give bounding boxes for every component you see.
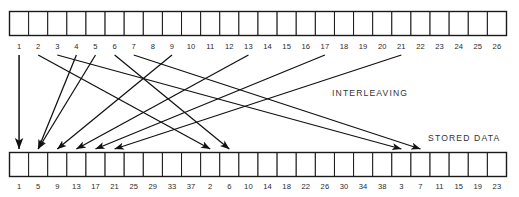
source-symbol-row: 1234567891011121314151617181920212223242… [10,12,507,51]
bottom_row-cell [48,153,67,177]
top_row-cell [220,12,239,36]
bottom_row-cell [86,153,105,177]
interleave-arrow [57,55,172,149]
bottom_row-cell [334,153,353,177]
top_row-cell [105,12,124,36]
top_row-index-label: 1 [17,42,21,51]
interleaving-figure: 1234567891011121314151617181920212223242… [0,0,519,197]
top_row-cell [162,12,181,36]
top_row-cell [315,12,334,36]
bottom_row-index-label: 29 [149,182,158,191]
interleave-arrow [134,55,421,149]
bottom_row-index-label: 9 [55,182,59,191]
bottom_row-cell [258,153,277,177]
stored-data-row: 1591317212529333726101418222630343837111… [10,153,507,191]
top_row-index-label: 20 [378,42,387,51]
bottom_row-cell [411,153,430,177]
top_row-cell [449,12,468,36]
interleave-arrow [57,55,401,149]
top_row-cell [124,12,143,36]
diagram-canvas: 1234567891011121314151617181920212223242… [0,0,519,197]
top_row-cell [411,12,430,36]
top_row-index-label: 5 [93,42,97,51]
top_row-index-label: 26 [493,42,502,51]
interleave-arrow [76,55,248,149]
bottom_row-index-label: 26 [321,182,330,191]
bottom_row-index-label: 21 [110,182,119,191]
top_row-index-label: 23 [435,42,444,51]
bottom_row-cell [277,153,296,177]
bottom_row-cell [296,153,315,177]
interleave-arrow [38,55,95,149]
bottom_row-index-label: 37 [187,182,196,191]
bottom_row-cell [487,153,506,177]
top_row-index-label: 7 [132,42,136,51]
top_row-cell [48,12,67,36]
top_row-index-label: 22 [416,42,425,51]
top_row-cell [67,12,86,36]
top_row-cell [392,12,411,36]
top_row-cell [430,12,449,36]
top_row-cell [182,12,201,36]
bottom_row-cell [430,153,449,177]
bottom_row-cell [449,153,468,177]
interleave-arrow-group [19,55,420,149]
top_row-index-label: 8 [151,42,155,51]
bottom_row-index-label: 3 [399,182,403,191]
top_row-index-label: 18 [340,42,349,51]
bottom_row-cell [468,153,487,177]
bottom_row-cell [315,153,334,177]
bottom_row-index-label: 5 [36,182,40,191]
top_row-index-label: 14 [263,42,272,51]
top_row-cell [373,12,392,36]
interleave-arrow [115,55,230,149]
bottom_row-index-label: 10 [244,182,253,191]
interleave-arrow [96,55,325,149]
bottom_row-cell [373,153,392,177]
top_row-index-label: 13 [244,42,253,51]
bottom_row-index-label: 6 [227,182,231,191]
stored-data-label: STORED DATA [428,133,500,143]
bottom_row-index-label: 38 [378,182,387,191]
top_row-index-label: 12 [225,42,234,51]
top_row-index-label: 15 [282,42,291,51]
interleave-arrow [38,55,76,149]
top_row-cell [296,12,315,36]
top_row-index-label: 9 [170,42,174,51]
interleaving-label: INTERLEAVING [332,88,408,98]
bottom_row-cell [354,153,373,177]
bottom_row-index-label: 30 [340,182,349,191]
bottom_row-index-label: 1 [17,182,21,191]
bottom_row-cell [124,153,143,177]
bottom_row-cell [392,153,411,177]
top_row-cell [487,12,506,36]
top_row-cell [468,12,487,36]
top_row-index-label: 4 [74,42,78,51]
bottom_row-cell [29,153,48,177]
top_row-cell [354,12,373,36]
top_row-cell [10,12,29,36]
top_row-cell [258,12,277,36]
top_row-index-label: 17 [321,42,330,51]
bottom_row-index-label: 17 [91,182,100,191]
top_row-cell [334,12,353,36]
top_row-cell [29,12,48,36]
bottom_row-index-label: 23 [493,182,502,191]
bottom_row-cell [143,153,162,177]
bottom_row-index-label: 22 [301,182,310,191]
bottom_row-index-label: 2 [208,182,212,191]
bottom_row-cell [201,153,220,177]
top_row-cell [277,12,296,36]
bottom_row-index-label: 25 [129,182,138,191]
top_row-cell [201,12,220,36]
top_row-cell [86,12,105,36]
top_row-index-label: 16 [301,42,310,51]
interleave-arrow [38,55,210,149]
bottom_row-index-label: 15 [454,182,463,191]
top_row-index-label: 3 [55,42,59,51]
bottom_row-index-label: 14 [263,182,272,191]
top_row-index-label: 10 [187,42,196,51]
bottom_row-cell [105,153,124,177]
bottom_row-index-label: 19 [474,182,483,191]
bottom_row-cell [239,153,258,177]
